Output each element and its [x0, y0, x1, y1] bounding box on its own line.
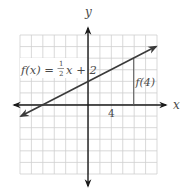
tick-label-4: 4 — [108, 107, 115, 119]
x-axis-label: x — [173, 98, 180, 112]
equation-label: f(x) = 1 2 x + 2 — [20, 60, 97, 78]
equation-prefix: f(x) = — [20, 63, 54, 77]
equation-suffix: x + 2 — [66, 63, 97, 77]
function-graph: y x f(x) = 1 2 x + 2 f(4) 4 — [0, 0, 184, 193]
f4-label: f(4) — [135, 76, 156, 89]
y-axis-label: y — [84, 5, 92, 19]
equation-denominator: 2 — [59, 70, 63, 78]
equation-numerator: 1 — [59, 60, 63, 68]
